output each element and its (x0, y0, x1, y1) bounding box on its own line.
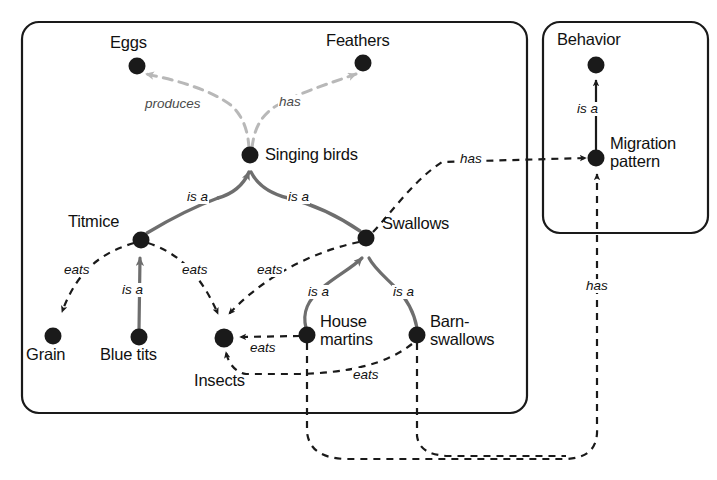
edge-label-isa-bluetits-titmice: is a (121, 283, 144, 297)
edge-label-isa-titmice-singing: is a (186, 190, 209, 204)
node-dot-swallows (358, 230, 375, 247)
node-dot-barnswallows (409, 327, 426, 344)
edge-label-produces: produces (144, 97, 202, 111)
edge-label-isa-housemartins: is a (307, 285, 330, 299)
edge-label-isa-barnswallows: is a (392, 285, 415, 299)
concept-map-canvas: Eggs Feathers Singing birds Titmice Swal… (0, 0, 717, 480)
node-dot-migration (588, 150, 605, 167)
edge-label-eats-barnswallows: eats (352, 368, 380, 382)
node-dots (45, 55, 605, 348)
edge-swallows-eats-insects (229, 242, 359, 314)
edge-singing-produces-eggs (146, 74, 249, 148)
node-label-titmice: Titmice (68, 212, 119, 230)
edge-housemartins-eats-insects (240, 336, 300, 337)
node-dot-eggs (129, 58, 146, 75)
edge-label-has-martins-migration: has (585, 279, 609, 293)
node-label-feathers: Feathers (326, 31, 390, 49)
diagram-svg (0, 0, 717, 480)
edge-titmice-eats-insects (148, 243, 218, 314)
node-dot-housemartins (299, 327, 316, 344)
node-label-eggs: Eggs (110, 33, 147, 51)
node-label-behavior: Behavior (557, 30, 621, 48)
edge-label-isa-swallows-singing: is a (287, 190, 310, 204)
edge-label-eats-titmice-insects: eats (181, 263, 209, 277)
edge-label-eats-housemartins: eats (249, 341, 277, 355)
edge-label-has-feathers: has (278, 95, 302, 109)
edge-label-eats-grain: eats (63, 263, 91, 277)
node-label-insects: Insects (194, 371, 245, 389)
node-dot-feathers (355, 55, 372, 72)
node-dot-behavior (588, 57, 605, 74)
node-label-barnswallows: Barn- swallows (430, 312, 494, 348)
edge-label-isa-migration-behavior: is a (576, 102, 599, 116)
node-dot-singing (242, 147, 259, 164)
node-label-singing: Singing birds (265, 145, 358, 163)
node-dot-grain (45, 328, 62, 345)
edge-label-eats-swallows-insects: eats (256, 263, 284, 277)
edge-barnswallows-has-migration (417, 343, 566, 456)
node-label-migration: Migration pattern (610, 134, 676, 170)
node-label-swallows: Swallows (382, 214, 449, 232)
node-label-grain: Grain (26, 345, 65, 363)
node-dot-insects (215, 329, 234, 348)
edge-singing-has-feathers (252, 74, 356, 148)
node-dot-bluetits (131, 329, 148, 346)
edge-titmice-eats-grain (62, 243, 134, 312)
edge-label-has-swallows-migration: has (459, 152, 483, 166)
node-label-bluetits: Blue tits (100, 345, 157, 363)
container-behavior-box (543, 22, 708, 233)
node-label-housemartins: House martins (320, 312, 373, 348)
node-dot-titmice (133, 232, 150, 249)
